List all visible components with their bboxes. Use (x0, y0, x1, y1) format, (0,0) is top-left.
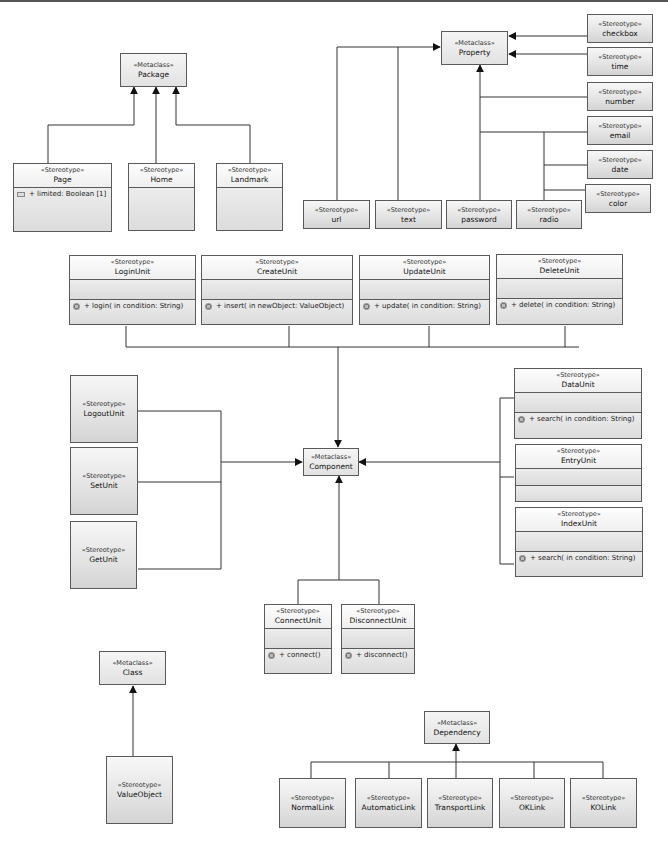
operation-icon (345, 652, 352, 659)
stereotype-transportlink[interactable]: «Stereotype» TransportLink (427, 778, 493, 828)
stereotype-date[interactable]: «Stereotype» date (587, 150, 653, 179)
attribute-text: + limited: Boolean [1] (29, 190, 106, 199)
metaclass-keyword: «Metaclass» (133, 61, 173, 70)
stereotype-loginunit[interactable]: «Stereotype» LoginUnit + login( in condi… (69, 255, 196, 325)
operation-row[interactable]: + search( in condition: String) (515, 413, 641, 426)
attribute-compartment (516, 532, 642, 552)
stereotype-keyword: «Stereotype» (598, 20, 642, 29)
attribute-row[interactable]: + limited: Boolean [1] (14, 188, 111, 201)
operation-icon (500, 302, 507, 309)
stereotype-valueobject[interactable]: «Stereotype» ValueObject (106, 756, 173, 824)
stereotype-url[interactable]: «Stereotype» url (303, 200, 370, 229)
stereotype-keyword: «Stereotype» (510, 794, 554, 803)
stereotype-keyword: «Stereotype» (118, 781, 162, 790)
operation-row[interactable]: + update( in condition: String) (360, 300, 489, 313)
operation-row[interactable]: + insert( in newObject: ValueObject) (202, 300, 352, 313)
stereotype-keyword: «Stereotype» (598, 53, 642, 62)
stereotype-name: ConnectUnit (267, 616, 329, 625)
stereotype-home[interactable]: «Stereotype» Home (128, 163, 195, 231)
stereotype-number[interactable]: «Stereotype» number (587, 82, 653, 111)
stereotype-setunit[interactable]: «Stereotype» SetUnit (70, 447, 138, 515)
stereotype-normallink[interactable]: «Stereotype» NormalLink (279, 778, 346, 828)
operation-row[interactable]: + login( in condition: String) (70, 300, 195, 313)
operation-text: + search( in condition: String) (530, 554, 635, 563)
metaclass-keyword: «Metaclass» (112, 659, 152, 668)
operation-icon (205, 303, 212, 310)
operation-compartment: + delete( in condition: String) (497, 299, 622, 324)
operation-icon (73, 303, 80, 310)
stereotype-connectunit[interactable]: «Stereotype» ConnectUnit + connect() (264, 604, 332, 674)
stereotype-email[interactable]: «Stereotype» email (587, 116, 653, 145)
stereotype-keyword: «Stereotype» (16, 166, 109, 175)
stereotype-logoutunit[interactable]: «Stereotype» LogoutUnit (70, 375, 138, 443)
stereotype-indexunit[interactable]: «Stereotype» IndexUnit + search( in cond… (515, 507, 643, 577)
stereotype-disconnectunit[interactable]: «Stereotype» DisconnectUnit + disconnect… (341, 604, 415, 674)
stereotype-name: number (605, 97, 634, 106)
attribute-compartment (265, 629, 331, 649)
stereotype-automaticlink[interactable]: «Stereotype» AutomaticLink (355, 778, 422, 828)
operation-row[interactable]: + delete( in condition: String) (497, 299, 622, 312)
metaclass-name: Dependency (433, 728, 480, 737)
attribute-compartment (70, 280, 195, 300)
operation-row[interactable]: + search( in condition: String) (516, 552, 642, 565)
stereotype-name: IndexUnit (518, 519, 640, 528)
stereotype-header: «Stereotype» LoginUnit (70, 256, 195, 280)
metaclass-property[interactable]: «Metaclass» Property (441, 31, 508, 65)
metaclass-keyword: «Metaclass» (437, 719, 477, 728)
stereotype-password[interactable]: «Stereotype» password (446, 200, 512, 229)
stereotype-name: NormalLink (291, 803, 334, 812)
stereotype-name: OKLink (519, 803, 545, 812)
stereotype-name: TransportLink (435, 803, 486, 812)
stereotype-keyword: «Stereotype» (518, 447, 639, 456)
stereotype-updateunit[interactable]: «Stereotype» UpdateUnit + update( in con… (359, 255, 490, 325)
stereotype-keyword: «Stereotype» (598, 122, 642, 131)
stereotype-keyword: «Stereotype» (367, 794, 411, 803)
stereotype-name: DataUnit (517, 380, 639, 389)
metaclass-name: Class (123, 668, 143, 677)
stereotype-page[interactable]: «Stereotype» Page + limited: Boolean [1] (13, 163, 112, 232)
operation-row[interactable]: + connect() (265, 649, 331, 662)
metaclass-name: Package (138, 70, 169, 79)
operation-compartment: + search( in condition: String) (515, 413, 641, 438)
stereotype-name: color (609, 199, 627, 208)
metaclass-class[interactable]: «Metaclass» Class (99, 651, 166, 685)
metaclass-dependency[interactable]: «Metaclass» Dependency (424, 711, 490, 744)
stereotype-deleteunit[interactable]: «Stereotype» DeleteUnit + delete( in con… (496, 254, 623, 325)
stereotype-header: «Stereotype» ConnectUnit (265, 605, 331, 629)
metaclass-package[interactable]: «Metaclass» Package (120, 53, 187, 87)
stereotype-entryunit[interactable]: «Stereotype» EntryUnit (515, 444, 642, 502)
stereotype-landmark[interactable]: «Stereotype» Landmark (216, 163, 283, 231)
metaclass-component[interactable]: «Metaclass» Component (303, 448, 359, 476)
attribute-compartment (217, 188, 282, 230)
operation-text: + disconnect() (356, 651, 408, 660)
stereotype-keyword: «Stereotype» (82, 472, 126, 481)
stereotype-name: DisconnectUnit (344, 616, 412, 625)
stereotype-time[interactable]: «Stereotype» time (587, 47, 653, 76)
stereotype-header: «Stereotype» DisconnectUnit (342, 605, 414, 629)
stereotype-text[interactable]: «Stereotype» text (375, 200, 442, 229)
stereotype-header: «Stereotype» DeleteUnit (497, 255, 622, 279)
stereotype-name: date (612, 165, 629, 174)
attribute-compartment (129, 188, 194, 230)
stereotype-createunit[interactable]: «Stereotype» CreateUnit + insert( in new… (201, 255, 353, 325)
stereotype-keyword: «Stereotype» (517, 371, 639, 380)
stereotype-keyword: «Stereotype» (596, 190, 640, 199)
metaclass-keyword: «Metaclass» (454, 39, 494, 48)
attribute-icon (17, 192, 25, 197)
stereotype-kolink[interactable]: «Stereotype» KOLink (570, 778, 637, 828)
stereotype-name: LogoutUnit (84, 409, 125, 418)
stereotype-color[interactable]: «Stereotype» color (585, 184, 651, 213)
stereotype-header: «Stereotype» Landmark (217, 164, 282, 188)
operation-text: + delete( in condition: String) (511, 301, 615, 310)
stereotype-keyword: «Stereotype» (82, 400, 126, 409)
stereotype-name: ValueObject (117, 790, 162, 799)
stereotype-name: LoginUnit (72, 267, 193, 276)
stereotype-dataunit[interactable]: «Stereotype» DataUnit + search( in condi… (514, 368, 642, 439)
stereotype-getunit[interactable]: «Stereotype» GetUnit (70, 521, 137, 589)
operation-row[interactable]: + disconnect() (342, 649, 414, 662)
stereotype-radio[interactable]: «Stereotype» radio (516, 200, 582, 229)
stereotype-checkbox[interactable]: «Stereotype» checkbox (587, 14, 653, 43)
stereotype-oklink[interactable]: «Stereotype» OKLink (499, 778, 565, 828)
stereotype-name: CreateUnit (204, 267, 350, 276)
metaclass-name: Property (459, 48, 491, 57)
